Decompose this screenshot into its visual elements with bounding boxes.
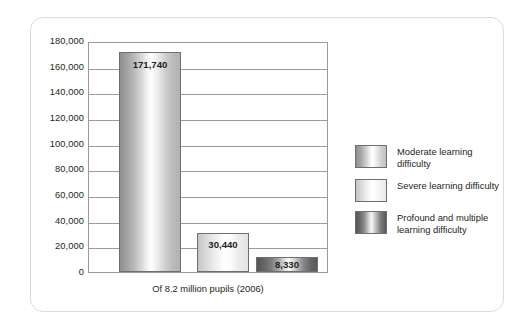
bar-value-label: 171,740 <box>119 60 181 70</box>
y-tick-label: 160,000 <box>31 63 84 72</box>
legend-item-label: Moderate learning difficulty <box>397 145 500 170</box>
bar-profound-multiple-learning-difficulty[interactable]: 8,330 <box>256 257 318 273</box>
y-tick-label: 40,000 <box>31 217 84 226</box>
y-tick-label: 80,000 <box>31 166 84 175</box>
bar-value-label: 8,330 <box>256 260 318 270</box>
chart-caption: Of 8.2 million pupils (2006) <box>88 283 328 294</box>
bar-fill <box>119 52 181 272</box>
chart-legend: Moderate learning difficulty Severe lear… <box>355 145 500 245</box>
moderate-swatch-icon <box>355 145 387 168</box>
y-tick-label: 120,000 <box>31 114 84 123</box>
bar-value-label: 30,440 <box>197 240 249 250</box>
y-tick-label: 180,000 <box>31 37 84 46</box>
severe-swatch-icon <box>355 179 387 202</box>
y-tick-label: 20,000 <box>31 243 84 252</box>
profound-swatch-icon <box>355 211 387 234</box>
bar-severe-learning-difficulty[interactable]: 30,440 <box>197 233 249 272</box>
chart-card: 180,000 160,000 140,000 120,000 100,000 … <box>30 17 504 312</box>
plot-area: 171,740 30,440 8,330 <box>88 42 328 273</box>
legend-item-severe[interactable]: Severe learning difficulty <box>355 179 500 202</box>
y-tick-label: 60,000 <box>31 191 84 200</box>
y-tick-label: 100,000 <box>31 140 84 149</box>
legend-item-profound[interactable]: Profound and multiple learning difficult… <box>355 211 500 236</box>
bar-moderate-learning-difficulty[interactable]: 171,740 <box>119 52 181 272</box>
legend-item-label: Profound and multiple learning difficult… <box>397 211 500 236</box>
y-tick-label: 140,000 <box>31 89 84 98</box>
legend-item-moderate[interactable]: Moderate learning difficulty <box>355 145 500 170</box>
y-axis: 180,000 160,000 140,000 120,000 100,000 … <box>31 42 84 273</box>
y-tick-label: 0 <box>31 268 84 277</box>
legend-item-label: Severe learning difficulty <box>397 179 499 192</box>
